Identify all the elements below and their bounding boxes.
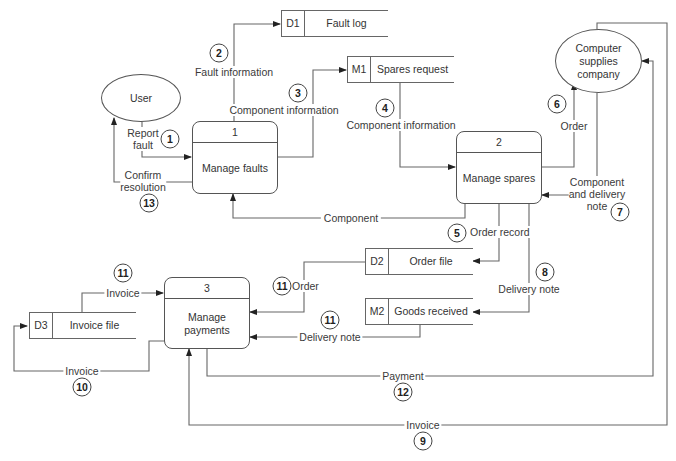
step-badge-13: 13 xyxy=(140,194,159,213)
step-badge-7: 7 xyxy=(611,203,630,222)
step-badge-9: 9 xyxy=(414,432,433,451)
process-manage-payments[interactable]: 3 Managepayments xyxy=(164,277,250,349)
store-id: D1 xyxy=(281,11,305,36)
process-label: Managepayments xyxy=(165,299,249,348)
store-label: Invoice file xyxy=(53,313,136,338)
flow-label-component-information-3: Component information xyxy=(229,104,338,116)
process-number: 3 xyxy=(165,278,249,299)
step-badge-11-delivery: 11 xyxy=(321,311,340,330)
step-badge-8: 8 xyxy=(536,263,555,282)
flow-label-component-information-4: Component information xyxy=(346,119,455,131)
step-badge-5: 5 xyxy=(448,224,467,243)
flow-label-report-fault: Reportfault xyxy=(127,127,159,151)
process-manage-faults[interactable]: 1 Manage faults xyxy=(192,121,278,194)
store-m1-spares-request[interactable]: M1 Spares request xyxy=(347,56,454,83)
process-manage-spares[interactable]: 2 Manage spares xyxy=(456,131,542,204)
flow-label-order-11: Order xyxy=(292,280,319,292)
store-label: Goods received xyxy=(389,299,473,324)
store-id: M2 xyxy=(365,299,389,324)
store-id: M1 xyxy=(347,57,371,82)
step-badge-2: 2 xyxy=(210,44,229,63)
flow-label-delivery-note-11: Delivery note xyxy=(297,331,362,343)
flow-label-payment: Payment xyxy=(380,370,425,382)
store-id: D2 xyxy=(365,249,389,274)
step-badge-11-invoice: 11 xyxy=(114,264,133,283)
store-d1-fault-log[interactable]: D1 Fault log xyxy=(281,10,388,37)
step-badge-6: 6 xyxy=(548,95,567,114)
flow-label-component: Component xyxy=(321,212,381,224)
store-d2-order-file[interactable]: D2 Order file xyxy=(365,248,473,275)
step-badge-10: 10 xyxy=(73,378,92,397)
process-number: 2 xyxy=(457,132,541,153)
entity-computer-supplies-company[interactable]: Computersuppliescompany xyxy=(555,29,642,93)
store-label: Fault log xyxy=(305,11,388,36)
flow-label-fault-information: Fault information xyxy=(195,66,273,78)
step-badge-12: 12 xyxy=(394,383,413,402)
process-number: 1 xyxy=(193,122,277,143)
step-badge-3: 3 xyxy=(289,84,308,103)
flow-label-order-record: Order record xyxy=(470,226,530,238)
step-badge-4: 4 xyxy=(376,99,395,118)
entity-user[interactable]: User xyxy=(101,74,181,122)
process-label: Manage spares xyxy=(457,153,541,203)
flow-label-invoice-11: Invoice xyxy=(104,287,141,299)
store-label: Order file xyxy=(389,249,473,274)
step-badge-1: 1 xyxy=(161,130,180,149)
process-label: Manage faults xyxy=(193,143,277,193)
data-flow-diagram: User Computersuppliescompany 1 Manage fa… xyxy=(0,0,676,461)
flow-label-delivery-note-8: Delivery note xyxy=(498,283,559,295)
store-id: D3 xyxy=(29,313,53,338)
entity-user-label: User xyxy=(130,92,152,105)
store-label: Spares request xyxy=(371,57,454,82)
store-m2-goods-received[interactable]: M2 Goods received xyxy=(365,298,473,325)
flow-label-invoice-9: Invoice xyxy=(404,419,441,431)
step-badge-11-order: 11 xyxy=(273,277,292,296)
store-d3-invoice-file[interactable]: D3 Invoice file xyxy=(29,312,136,339)
entity-csc-label: Computersuppliescompany xyxy=(575,42,621,81)
flow-label-invoice-10: Invoice xyxy=(63,365,100,377)
flow-label-confirm-resolution: Confirmresolution xyxy=(120,169,166,193)
flow-label-order-6: Order xyxy=(561,120,588,132)
